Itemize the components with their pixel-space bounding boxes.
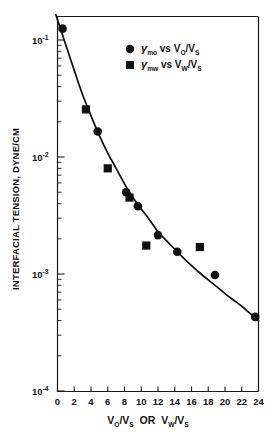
x-tick-label: 6 bbox=[105, 396, 110, 407]
legend-gamma-subscript: mo bbox=[147, 49, 157, 56]
y-decade-exponent: -3 bbox=[42, 268, 48, 275]
data-point-circle bbox=[58, 24, 67, 33]
x-title-v2: V bbox=[161, 414, 168, 426]
x-tick-label: 8 bbox=[122, 396, 127, 407]
x-title-slash2: /V bbox=[174, 414, 184, 426]
x-axis-title-text: VO/VS OR VW/VS bbox=[107, 414, 189, 428]
legend-relation: vs bbox=[157, 43, 174, 54]
legend-variable-denominator: /V bbox=[188, 59, 198, 70]
data-point-square bbox=[104, 164, 112, 172]
x-title-or: OR bbox=[134, 414, 161, 426]
x-tick-label: 20 bbox=[220, 396, 231, 407]
data-point-circle bbox=[134, 202, 143, 211]
y-axis-title: INTERFACIAL TENSION, DYNE/CM bbox=[10, 128, 21, 290]
x-tick-label: 18 bbox=[203, 396, 214, 407]
data-point-square bbox=[142, 241, 150, 249]
y-decade-mantissa: 10 bbox=[32, 386, 43, 397]
y-decade-exponent: -1 bbox=[42, 34, 48, 41]
x-tick-label: 22 bbox=[236, 396, 247, 407]
x-axis-title: VO/VS OR VW/VS bbox=[107, 414, 189, 428]
x-title-slash1: /V bbox=[119, 414, 129, 426]
data-point-circle bbox=[173, 247, 182, 256]
data-point-circle bbox=[211, 271, 220, 280]
x-tick-label: 10 bbox=[136, 396, 147, 407]
y-decade-mantissa: 10 bbox=[32, 269, 43, 280]
data-point-square bbox=[82, 105, 90, 113]
figure-container: 10-110-210-310-4 024681012141618202224 I… bbox=[0, 0, 279, 440]
data-point-square bbox=[125, 193, 133, 201]
x-tick-label: 12 bbox=[153, 396, 164, 407]
x-tick-label: 4 bbox=[88, 396, 94, 407]
data-point-circle bbox=[93, 127, 102, 136]
data-point-circle bbox=[251, 313, 260, 322]
y-decade-mantissa: 10 bbox=[32, 152, 43, 163]
x-title-v1: V bbox=[107, 414, 114, 426]
x-title-s2-sub: S bbox=[184, 421, 189, 428]
x-tick-label: 24 bbox=[253, 396, 264, 407]
x-tick-label: 14 bbox=[169, 396, 180, 407]
y-decade-exponent: -2 bbox=[42, 151, 48, 158]
y-decade-mantissa: 10 bbox=[32, 35, 43, 46]
legend-marker-circle bbox=[126, 45, 134, 53]
data-point-square bbox=[196, 243, 204, 251]
legend-variable-denominator-subscript: S bbox=[195, 49, 200, 56]
y-decade-exponent: -4 bbox=[42, 385, 48, 392]
x-tick-label: 16 bbox=[186, 396, 197, 407]
x-tick-label: 2 bbox=[72, 396, 77, 407]
y-axis-title-text: INTERFACIAL TENSION, DYNE/CM bbox=[10, 128, 21, 290]
data-point-circle bbox=[154, 231, 163, 240]
x-tick-label: 0 bbox=[55, 396, 60, 407]
chart-background bbox=[0, 0, 279, 440]
legend-variable-denominator: /V bbox=[186, 43, 196, 54]
legend-relation: vs bbox=[158, 59, 175, 70]
legend-variable-denominator-subscript: S bbox=[197, 65, 202, 72]
interfacial-tension-chart: 10-110-210-310-4 024681012141618202224 I… bbox=[0, 0, 279, 440]
legend-marker-square bbox=[126, 61, 134, 69]
